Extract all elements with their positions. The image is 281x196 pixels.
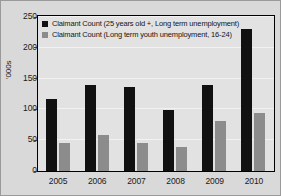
y-axis-tick-label: 150 bbox=[0, 74, 37, 83]
bar bbox=[241, 29, 252, 171]
y-axis-tick-label: 0 bbox=[0, 166, 37, 175]
y-axis-tick-label: 250 bbox=[0, 12, 37, 21]
legend-item: Claimant Count (25 years old +, Long ter… bbox=[42, 18, 239, 29]
x-axis-tick-label: 2009 bbox=[195, 176, 234, 186]
bar bbox=[46, 99, 57, 171]
bar-group bbox=[234, 16, 273, 171]
y-axis-tick-label: 50 bbox=[0, 135, 37, 144]
bar bbox=[98, 135, 109, 171]
plot-area: Claimant Count (25 years old +, Long ter… bbox=[37, 15, 275, 172]
x-axis-tick-label: 2008 bbox=[156, 176, 195, 186]
x-axis-tick-label: 2007 bbox=[117, 176, 156, 186]
bar bbox=[163, 110, 174, 171]
bar bbox=[59, 143, 70, 171]
chart-figure: '000s 050100150200250 Claimant Count (25… bbox=[0, 0, 281, 196]
legend-swatch-grey bbox=[42, 32, 48, 38]
bar bbox=[254, 113, 265, 171]
chart-legend: Claimant Count (25 years old +, Long ter… bbox=[42, 18, 239, 40]
legend-item: Claimant Count (Long term youth unemploy… bbox=[42, 29, 239, 40]
x-axis-tick-label: 2005 bbox=[39, 176, 78, 186]
y-axis-tick-label: 200 bbox=[0, 43, 37, 52]
x-axis-tick-label: 2006 bbox=[78, 176, 117, 186]
bar bbox=[215, 121, 226, 172]
legend-label: Claimant Count (25 years old +, Long ter… bbox=[52, 20, 239, 28]
x-axis-tick-label: 2010 bbox=[234, 176, 273, 186]
bar bbox=[124, 87, 135, 171]
bar bbox=[85, 85, 96, 171]
y-axis-tick-label: 100 bbox=[0, 104, 37, 113]
bar bbox=[176, 147, 187, 171]
legend-swatch-dark bbox=[42, 21, 48, 27]
legend-label: Claimant Count (Long term youth unemploy… bbox=[52, 31, 232, 39]
bar bbox=[202, 85, 213, 171]
bar bbox=[137, 143, 148, 171]
